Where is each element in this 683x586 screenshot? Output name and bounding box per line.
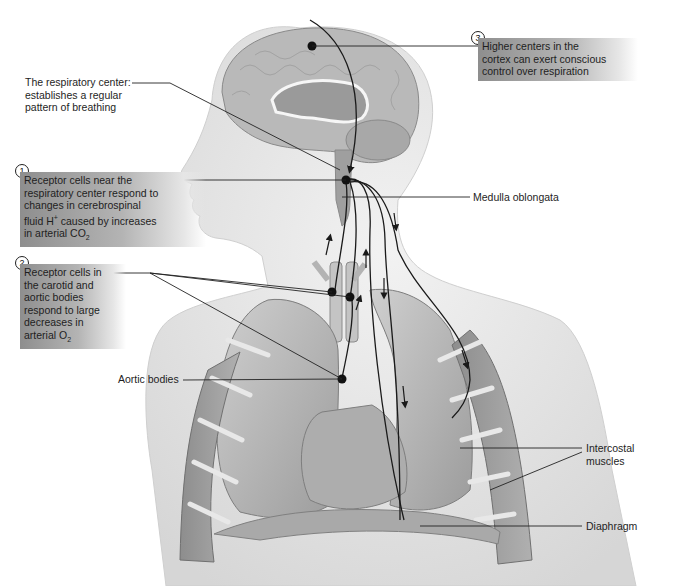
callout-2-line-1: Receptor cells in (24, 266, 122, 279)
callout-higher-centers: Higher centers in the cortex can exert c… (478, 38, 638, 81)
callout-1-line-1: Receptor cells near the (24, 174, 202, 187)
callout-central-chemoreceptors: Receptor cells near the respiratory cent… (20, 172, 206, 247)
label-aortic-bodies: Aortic bodies (118, 373, 179, 386)
label-respiratory-center-line-1: The respiratory center: (25, 76, 131, 89)
callout-1-line-5: in arterial CO2 (24, 227, 202, 245)
callout-2-line-2: the carotid and (24, 279, 122, 292)
label-intercostal-line-2: muscles (586, 455, 634, 468)
label-respiratory-center-line-3: pattern of breathing (25, 101, 131, 114)
callout-2-line-5: decreases in (24, 316, 122, 329)
callout-1-line-2: respiratory center respond to (24, 187, 202, 200)
label-intercostal-line-1: Intercostal (586, 442, 634, 455)
callout-3-line-2: cortex can exert conscious (482, 53, 634, 66)
label-respiratory-center: The respiratory center: establishes a re… (25, 76, 131, 114)
label-intercostal-muscles: Intercostal muscles (586, 442, 634, 467)
label-respiratory-center-line-2: establishes a regular (25, 89, 131, 102)
callout-3-line-3: control over respiration (482, 65, 634, 78)
callout-peripheral-chemoreceptors: Receptor cells in the carotid and aortic… (20, 264, 126, 349)
callout-2-line-3: aortic bodies (24, 291, 122, 304)
callout-1-line-4: fluid H+ caused by increases (24, 212, 202, 227)
callout-3-line-1: Higher centers in the (482, 40, 634, 53)
callout-2-line-4: respond to large (24, 304, 122, 317)
callout-2-line-6: arterial O2 (24, 329, 122, 347)
label-diaphragm: Diaphragm (586, 520, 637, 533)
label-medulla-oblongata: Medulla oblongata (473, 191, 559, 204)
callout-1-line-3: changes in cerebrospinal (24, 199, 202, 212)
